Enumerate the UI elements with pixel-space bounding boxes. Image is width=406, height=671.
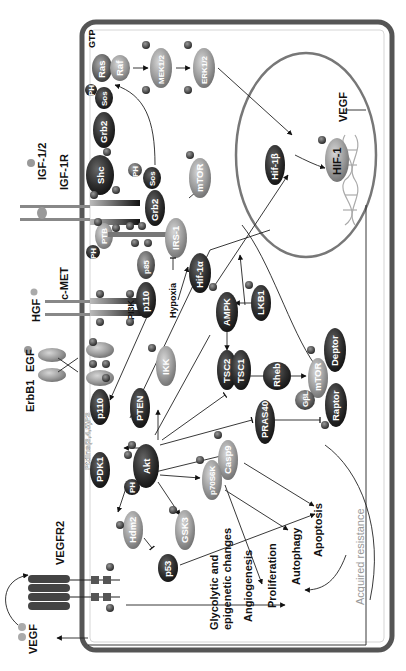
sos-label-1: Sos	[100, 91, 109, 106]
raf-label: Raf	[114, 60, 125, 76]
acquired-resistance-label: Acquired resistance	[354, 508, 366, 605]
casp9-label: Casp9	[222, 445, 233, 474]
ph-label-3: PH	[89, 248, 98, 259]
tsc2-label: TSC2	[221, 359, 232, 383]
outcome-apoptosis: Apoptosis	[312, 503, 324, 557]
ph-label-4: PH	[128, 482, 137, 493]
hif1a-label: Hif-1α	[194, 261, 205, 288]
irs1-label: IRS-1	[170, 225, 181, 250]
p110-label-b: p110	[94, 398, 105, 419]
igf-label: IGF-1/2	[36, 143, 48, 180]
outcome-angiogenesis: Angiogenesis	[242, 550, 254, 622]
outcome-proliferation: Proliferation	[266, 543, 278, 608]
gbl-label: GβL	[301, 391, 310, 407]
erbb1-label: ErbB1	[24, 380, 36, 412]
outcome-glycolytic-line1: Glycolytic and	[208, 555, 220, 630]
pten-label: PTEN	[134, 396, 145, 421]
ph-label-1: PH	[87, 85, 96, 96]
outcome-autophagy: Autophagy	[290, 527, 302, 585]
mtor-label-1: mTOR	[194, 164, 205, 192]
raptor-label: Raptor	[330, 390, 341, 421]
hgf-label: HGF	[30, 299, 42, 323]
hif1b-label: Hif-1β	[269, 153, 280, 180]
irs1-linker	[108, 232, 168, 237]
sos-label-2: Sos	[148, 171, 157, 186]
vegfr2-label: VEGFR2	[54, 521, 66, 565]
hif1-label: HIF-1	[331, 148, 343, 176]
phospho-hif1	[318, 136, 326, 144]
ras-label: Ras	[96, 61, 107, 78]
p85-label: p85	[142, 260, 151, 274]
pdk1-label: PDK1	[94, 456, 105, 482]
pathway-diagram: IGF-1/2 IGF-1R HGF c-MET EGF ErbB1 VEGFR…	[0, 0, 406, 671]
tsc1-label: TSC1	[235, 358, 246, 383]
shc-label: Shc	[95, 167, 106, 184]
ph-label-2: PH	[131, 166, 140, 177]
hgf-ligand-icon	[31, 289, 38, 296]
hdm2-label: Hdm2	[127, 517, 138, 543]
erk-label: ERK1/2	[200, 55, 209, 84]
pi3k-label: PI3K	[126, 299, 136, 320]
p110-label-a: p110	[140, 291, 151, 312]
rheb-label: Rheb	[271, 363, 282, 387]
igf1r-label: IGF-1R	[58, 154, 70, 190]
p53-label: p53	[162, 561, 173, 577]
hypoxia-label: Hypoxia	[168, 282, 178, 318]
mek-label: MEK1/2	[157, 55, 166, 84]
igf-ligand-icon	[27, 159, 35, 167]
p70s6k-label: p70S6K	[208, 465, 217, 495]
vegf-ligand-icon	[18, 623, 26, 641]
outcome-glycolytic-line2: epigenetic changes	[221, 528, 233, 630]
gsk3-label: GSK3	[179, 517, 190, 543]
gtp-label: GTP	[87, 29, 97, 48]
ampk-label: AMPK	[221, 298, 232, 326]
ptb-label: PTB	[100, 228, 109, 244]
vegfr2-receptor	[28, 575, 120, 610]
pip3-label: PtdIns(3,4,5)P3	[83, 412, 92, 470]
vegf-gene-label: VEGF	[337, 92, 349, 122]
pras40-label: PRAS40	[259, 401, 270, 438]
cmet-label: c-MET	[58, 267, 70, 300]
egf-label: EGF	[24, 349, 36, 372]
grb2-label-1: Grb2	[98, 121, 109, 143]
grb2-label-2: Grb2	[149, 199, 160, 221]
lkb1-label: LKB1	[255, 289, 266, 315]
nucleus	[236, 53, 376, 257]
deptor-label: Deptor	[329, 335, 340, 366]
akt-label: Akt	[141, 458, 152, 474]
vegf-ligand-label: VEGF	[27, 624, 39, 654]
ikk-label: IKK	[160, 359, 171, 376]
mtor-label-2: mTOR	[312, 363, 323, 391]
